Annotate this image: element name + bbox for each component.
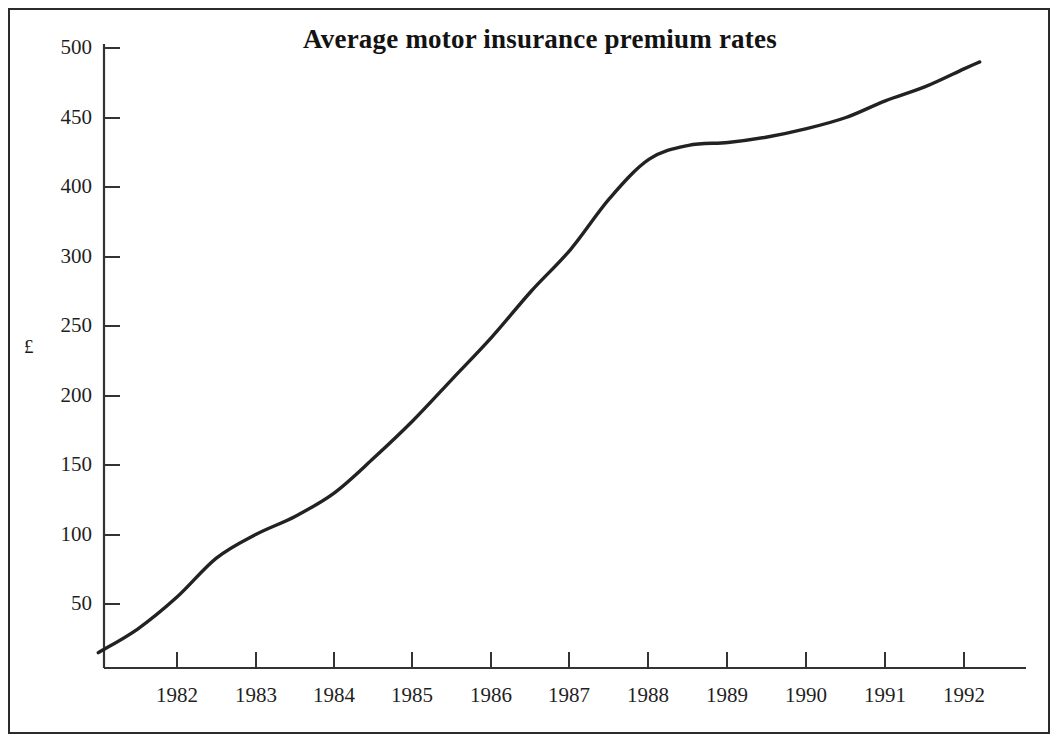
x-tick-label: 1983 xyxy=(221,685,291,706)
y-tick-label: 250 xyxy=(38,315,92,336)
y-tick-label: 150 xyxy=(38,454,92,475)
x-tick-label: 1988 xyxy=(613,685,683,706)
y-axis-ticks xyxy=(104,48,120,604)
y-tick-label: 400 xyxy=(38,176,92,197)
line-chart: Average motor insurance premium rates £ … xyxy=(0,0,1059,754)
x-tick-label: 1984 xyxy=(299,685,369,706)
x-tick-label: 1992 xyxy=(929,685,999,706)
x-tick-label: 1990 xyxy=(771,685,841,706)
chart-canvas xyxy=(0,0,1059,754)
x-tick-label: 1986 xyxy=(456,685,526,706)
y-tick-label: 300 xyxy=(38,246,92,267)
x-tick-label: 1982 xyxy=(142,685,212,706)
x-axis-ticks xyxy=(177,652,964,668)
y-tick-label: 500 xyxy=(38,37,92,58)
y-tick-label: 450 xyxy=(38,107,92,128)
x-tick-label: 1987 xyxy=(534,685,604,706)
y-tick-label: 200 xyxy=(38,385,92,406)
x-tick-label: 1991 xyxy=(850,685,920,706)
chart-page: Average motor insurance premium rates £ … xyxy=(0,0,1059,754)
y-tick-label: 50 xyxy=(38,593,92,614)
y-tick-label: 100 xyxy=(38,524,92,545)
x-tick-label: 1985 xyxy=(377,685,447,706)
premium-rate-line xyxy=(98,62,979,653)
x-tick-label: 1989 xyxy=(692,685,762,706)
